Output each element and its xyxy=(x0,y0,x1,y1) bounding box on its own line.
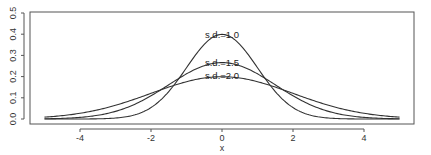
x-tick-label: -4 xyxy=(76,133,84,143)
y-tick-label: 0.4 xyxy=(8,28,18,41)
label-sd-1-5: s.d.=1.5 xyxy=(205,57,239,68)
curve-20 xyxy=(45,77,400,117)
y-tick-label: 0.1 xyxy=(8,92,18,105)
x-tick-label: -2 xyxy=(147,133,155,143)
y-tick-label: 0.3 xyxy=(8,49,18,62)
x-axis-title: x xyxy=(220,143,225,153)
label-sd-1-0: s.d.=1.0 xyxy=(205,29,239,40)
y-tick-label: 0.5 xyxy=(8,7,18,20)
y-tick-label: 0.2 xyxy=(8,70,18,83)
y-tick-label: 0.0 xyxy=(8,113,18,126)
normal-density-chart: 0.00.10.20.30.40.5 -4-2024 s.d.=1.0 s.d.… xyxy=(0,0,431,155)
x-axis: -4-2024 xyxy=(76,129,367,143)
y-axis: 0.00.10.20.30.40.5 xyxy=(8,7,24,126)
x-tick-label: 2 xyxy=(290,133,295,143)
label-sd-2-0: s.d.=2.0 xyxy=(205,70,239,81)
x-tick-label: 0 xyxy=(219,133,224,143)
x-tick-label: 4 xyxy=(361,133,366,143)
